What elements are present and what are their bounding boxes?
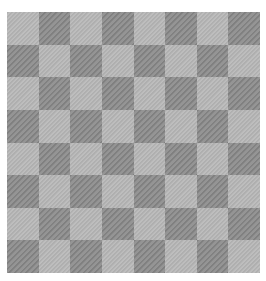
board-square — [228, 12, 260, 45]
board-square — [134, 240, 166, 273]
board-square — [197, 240, 229, 273]
board-square — [39, 175, 71, 208]
board-square — [165, 45, 197, 78]
board-square — [70, 175, 102, 208]
board-square — [39, 12, 71, 45]
board-square — [70, 143, 102, 176]
board-square — [7, 77, 39, 110]
board-square — [197, 175, 229, 208]
board-square — [70, 110, 102, 143]
board-square — [197, 208, 229, 241]
board-square — [165, 143, 197, 176]
board-square — [102, 77, 134, 110]
board-square — [228, 45, 260, 78]
board-square — [197, 110, 229, 143]
board-square — [165, 12, 197, 45]
board-square — [102, 45, 134, 78]
board-square — [165, 208, 197, 241]
board-square — [134, 77, 166, 110]
board-square — [39, 208, 71, 241]
board-square — [165, 110, 197, 143]
board-square — [165, 175, 197, 208]
board-square — [39, 240, 71, 273]
board-square — [228, 143, 260, 176]
board-square — [134, 12, 166, 45]
board-square — [197, 45, 229, 78]
board-square — [228, 110, 260, 143]
board-square — [134, 45, 166, 78]
board-square — [197, 143, 229, 176]
board-square — [228, 77, 260, 110]
board-square — [165, 77, 197, 110]
board-square — [102, 208, 134, 241]
board-square — [228, 240, 260, 273]
board-square — [39, 110, 71, 143]
board-square — [39, 45, 71, 78]
board-square — [70, 45, 102, 78]
board-square — [165, 240, 197, 273]
board-square — [7, 110, 39, 143]
board-square — [197, 77, 229, 110]
board-square — [134, 143, 166, 176]
board-square — [70, 208, 102, 241]
board-square — [39, 143, 71, 176]
board-square — [228, 175, 260, 208]
board-square — [134, 110, 166, 143]
board-square — [102, 143, 134, 176]
board-square — [39, 77, 71, 110]
board-square — [134, 175, 166, 208]
board-square — [7, 143, 39, 176]
board-square — [7, 175, 39, 208]
board-square — [197, 12, 229, 45]
board-square — [102, 12, 134, 45]
checkerboard — [7, 12, 260, 273]
board-square — [70, 77, 102, 110]
board-square — [7, 240, 39, 273]
board-square — [70, 240, 102, 273]
board-square — [102, 175, 134, 208]
board-square — [70, 12, 102, 45]
board-square — [7, 12, 39, 45]
board-square — [102, 240, 134, 273]
board-square — [228, 208, 260, 241]
board-square — [102, 110, 134, 143]
board-square — [134, 208, 166, 241]
board-square — [7, 208, 39, 241]
board-square — [7, 45, 39, 78]
